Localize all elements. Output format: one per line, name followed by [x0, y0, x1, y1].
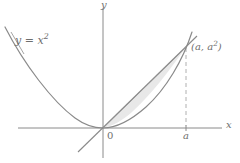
origin-label: 0 — [107, 131, 113, 141]
x-axis-label: x — [226, 120, 232, 130]
parabola-secant-figure: y = x2 (a, a2) x y 0 a — [0, 0, 240, 163]
figure-canvas — [0, 0, 240, 163]
y-axis-label: y — [101, 0, 107, 10]
curve-equation-label: y = x2 — [15, 33, 49, 46]
point-label-close: ) — [218, 41, 222, 52]
curve-equation-base: y = x — [15, 34, 44, 47]
point-coordinate-label: (a, a2) — [191, 40, 222, 52]
point-label-open: (a, a — [191, 41, 213, 52]
curve-equation-exponent: 2 — [44, 32, 49, 41]
shaded-region-outline — [103, 47, 186, 128]
x-tick-label-a: a — [183, 131, 189, 141]
